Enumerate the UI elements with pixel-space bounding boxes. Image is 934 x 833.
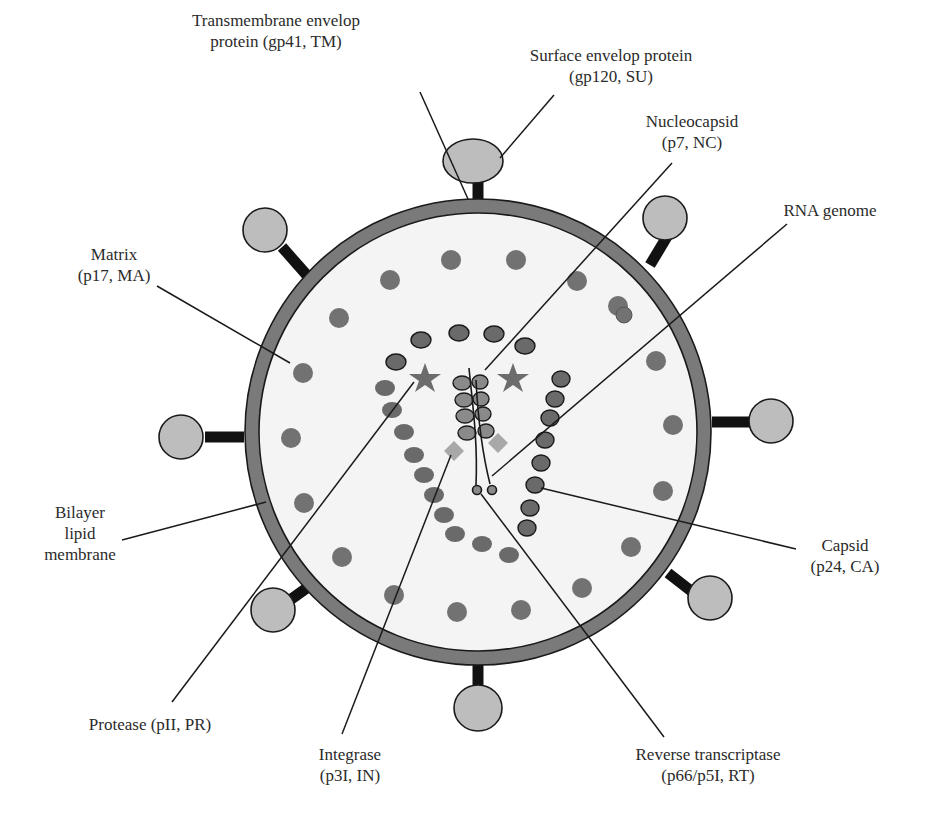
spike-head-top — [443, 139, 503, 183]
spike-head-lower-left — [251, 588, 295, 632]
virion-illustration — [0, 0, 934, 833]
spike-head-left — [159, 415, 203, 459]
label-ca-line2: (p24, CA) — [790, 556, 900, 577]
label-rna-line1: RNA genome — [760, 200, 900, 221]
label-membrane-line1: Bilayer — [30, 502, 130, 523]
label-integrase: Integrase (p3I, IN) — [300, 744, 400, 786]
label-rt-line1: Reverse transcriptase — [608, 744, 808, 765]
label-tm-line1: Transmembrane envelop — [156, 10, 396, 31]
label-protease: Protease (pII, PR) — [60, 714, 240, 735]
label-transmembrane-protein: Transmembrane envelop protein (gp41, TM) — [156, 10, 396, 52]
leader-su — [500, 95, 554, 158]
label-capsid: Capsid (p24, CA) — [790, 535, 900, 577]
label-ca-line1: Capsid — [790, 535, 900, 556]
label-su-line2: (gp120, SU) — [496, 66, 726, 87]
spike-head-upper-left — [243, 208, 287, 252]
spike-head-bottom — [454, 685, 502, 731]
label-membrane-line3: membrane — [30, 544, 130, 565]
label-in-line2: (p3I, IN) — [300, 765, 400, 786]
leader-membrane — [122, 502, 266, 540]
label-surface-protein: Surface envelop protein (gp120, SU) — [496, 45, 726, 87]
label-tm-line2: protein (gp41, TM) — [156, 31, 396, 52]
label-membrane-line2: lipid — [30, 523, 130, 544]
label-bilayer-membrane: Bilayer lipid membrane — [30, 502, 130, 565]
label-nucleocapsid: Nucleocapsid (p7, NC) — [622, 111, 762, 153]
leader-ma — [157, 286, 290, 363]
spike-head-lower-right — [688, 576, 732, 620]
label-in-line1: Integrase — [300, 744, 400, 765]
hiv-virion-diagram: Transmembrane envelop protein (gp41, TM)… — [0, 0, 934, 833]
label-pr-line1: Protease (pII, PR) — [60, 714, 240, 735]
label-rna-genome: RNA genome — [760, 200, 900, 221]
label-nc-line2: (p7, NC) — [622, 132, 762, 153]
label-matrix: Matrix (p17, MA) — [54, 244, 174, 286]
spike-head-upper-right — [643, 196, 687, 240]
label-su-line1: Surface envelop protein — [496, 45, 726, 66]
label-reverse-transcriptase: Reverse transcriptase (p66/p5I, RT) — [608, 744, 808, 786]
spike-head-right — [749, 399, 793, 443]
label-ma-line1: Matrix — [54, 244, 174, 265]
label-ma-line2: (p17, MA) — [54, 265, 174, 286]
label-rt-line2: (p66/p5I, RT) — [608, 765, 808, 786]
label-nc-line1: Nucleocapsid — [622, 111, 762, 132]
